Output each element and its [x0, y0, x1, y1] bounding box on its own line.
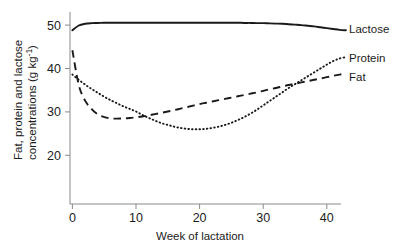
- x-tick-label-30: 30: [256, 211, 270, 225]
- legend-label-fat: Fat: [349, 71, 366, 83]
- y-tick-label-50: 50: [47, 19, 61, 33]
- y-axis-title-close: ): [26, 45, 38, 49]
- legend-label-protein: Protein: [349, 52, 385, 64]
- x-tick-label-20: 20: [193, 211, 207, 225]
- x-tick-label-40: 40: [320, 211, 334, 225]
- y-axis-title: Fat, protein and lactose concentrations …: [12, 40, 38, 160]
- x-tick-label-0: 0: [69, 211, 76, 225]
- series-line-protein: [72, 57, 345, 129]
- y-tick-label-40: 40: [47, 62, 61, 76]
- x-axis-title: Week of lactation: [156, 230, 244, 242]
- y-axis-title-line2: concentrations (g kg-1): [24, 45, 38, 160]
- y-tick-label-30: 30: [47, 105, 61, 119]
- legend-label-lactose: Lactose: [349, 23, 389, 35]
- legend: Lactose Protein Fat: [349, 23, 389, 83]
- x-axis-ticks: 0 10 20 30 40: [69, 204, 334, 225]
- y-tick-label-20: 20: [47, 149, 61, 163]
- series-line-fat: [72, 50, 345, 118]
- line-chart: Fat, protein and lactose concentrations …: [0, 0, 395, 249]
- y-axis-title-line1: Fat, protein and lactose: [12, 40, 24, 160]
- x-tick-label-10: 10: [129, 211, 143, 225]
- series-line-lactose: [72, 23, 345, 31]
- y-axis-title-line2-text: concentrations (g kg: [26, 56, 38, 160]
- figure-container: Fat, protein and lactose concentrations …: [0, 0, 395, 249]
- y-axis-ticks: 50 40 30 20: [47, 19, 70, 163]
